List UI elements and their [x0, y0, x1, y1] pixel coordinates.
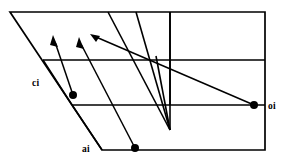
dot-oi [250, 101, 258, 109]
dot-ai [131, 144, 139, 152]
label-ci: ci [32, 78, 39, 88]
projection-diagram: ci ai oi [0, 0, 289, 165]
arrow-head-ai [76, 37, 84, 49]
diagram-canvas: ci ai oi [0, 0, 289, 165]
vector-oi-to-upper [96, 37, 254, 105]
label-ai: ai [82, 144, 90, 154]
label-oi: oi [268, 101, 276, 111]
dot-ci [69, 91, 77, 99]
arrow-head-ci [50, 35, 58, 47]
vector-ci-to-upper [55, 42, 73, 95]
ray-line-right-edge [136, 12, 170, 130]
arrow-head-oi [90, 34, 100, 42]
outline-quadrilateral [10, 12, 265, 150]
ray-line-diagonal-long [156, 56, 170, 130]
slant-line-one [43, 60, 72, 105]
